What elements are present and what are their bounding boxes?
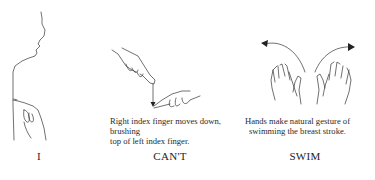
caption-line: Hands make natural gesture of bbox=[245, 116, 375, 126]
profile-pointing-illustration bbox=[0, 0, 110, 145]
index-finger-brush-illustration bbox=[110, 0, 245, 110]
caption-line: top of left index finger. bbox=[110, 136, 245, 146]
sign-caption: Hands make natural gesture of swimming t… bbox=[245, 116, 375, 136]
sign-word: SWIM bbox=[275, 150, 335, 162]
sign-caption: Right index finger moves down, brushing … bbox=[110, 116, 245, 146]
caption-line: swimming the breast stroke. bbox=[245, 126, 375, 136]
caption-line: Right index finger moves down, brushing bbox=[110, 116, 245, 136]
sign-panel-swim: Hands make natural gesture of swimming t… bbox=[245, 0, 375, 180]
sign-word: CAN'T bbox=[140, 150, 200, 162]
sign-panel-i: I bbox=[0, 0, 110, 180]
breast-stroke-illustration bbox=[245, 0, 375, 110]
sign-panel-cant: Right index finger moves down, brushing … bbox=[110, 0, 245, 180]
sign-word: I bbox=[32, 150, 46, 162]
